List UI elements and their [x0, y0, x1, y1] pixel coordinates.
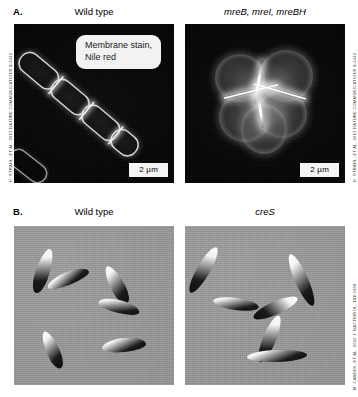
credit-text: M. CABEEN, ET AL. 2010 J. BACTERIOL. [352, 303, 357, 390]
panel-b-column-header-cres: creS [185, 206, 345, 217]
panel-b-credit-right: M. CABEEN, ET AL. 2010 J. BACTERIOL. 192… [352, 283, 357, 390]
swollen-round-cell [213, 46, 317, 156]
credit-pages: :3442 [8, 53, 13, 65]
credit-volume: 5 [352, 64, 357, 67]
panel-a-micrograph-mutant: 2 µm [185, 24, 345, 183]
membrane-stain-callout: Membrane stain, Nile red [76, 35, 161, 69]
credit-volume: 5 [8, 64, 13, 67]
panel-b-micrograph-cres [185, 226, 345, 385]
panel-a-column-header-wild-type: Wild type [14, 6, 174, 17]
credit-text: H. STRAHL, ET AL. 2013 NATURE COMMUNICAT… [352, 67, 357, 182]
panel-a-micrograph-wild-type: Membrane stain, Nile red 2 µm [14, 24, 174, 183]
panel-b-column-header-wild-type: Wild type [14, 206, 174, 217]
credit-pages: :3442 [352, 53, 357, 65]
panel-a-credit-right: H. STRAHL, ET AL. 2013 NATURE COMMUNICAT… [352, 53, 357, 182]
panel-a-column-header-mutant: mreB, mreI, mreBH [185, 6, 345, 17]
panel-b-micrograph-wild-type [14, 226, 174, 385]
image-noise-texture [14, 226, 174, 385]
credit-pages: :3368 [352, 283, 357, 295]
panel-a-credit-left: H. STRAHL, ET AL. 2013 NATURE COMMUNICAT… [8, 53, 13, 182]
panel-a: A. Wild type mreB, mreI, mreBH Membrane … [0, 0, 358, 196]
panel-b: B. Wild type creS M. CABEEN, ET AL. 201 [0, 200, 358, 397]
credit-text: H. STRAHL, ET AL. 2013 NATURE COMMUNICAT… [8, 67, 13, 182]
credit-volume: 192 [352, 295, 357, 303]
figure-container: A. Wild type mreB, mreI, mreBH Membrane … [0, 0, 358, 397]
scale-bar-label: 2 µm [129, 163, 168, 178]
scale-bar-label: 2 µm [300, 163, 339, 178]
